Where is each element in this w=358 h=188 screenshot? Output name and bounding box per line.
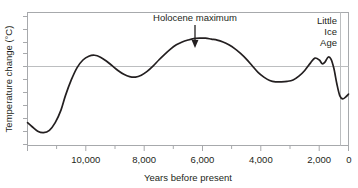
y-axis-ticks [23,17,28,145]
chart-canvas: Holocene maximum Little Ice Age 10,000 8… [0,0,358,188]
x-tick-label-4000: 4,000 [249,154,273,165]
x-tick-label-10000: 10,000 [71,154,100,165]
x-tick-label-0: 0 [346,154,351,165]
x-tick-label-6000: 6,000 [191,154,215,165]
x-axis-title: Years before present [144,172,232,183]
little-ice-age-label-line2: Ice [324,26,337,37]
little-ice-age-label-line1: Little [317,15,337,26]
plot-frame [28,13,349,146]
little-ice-age-label-line3: Age [320,37,337,48]
temperature-change-chart-figure: Holocene maximum Little Ice Age 10,000 8… [0,0,358,188]
x-axis-ticks [28,146,349,152]
x-tick-label-8000: 8,000 [132,154,156,165]
y-axis-title: Temperature change (°C) [3,26,14,133]
x-tick-label-2000: 2,000 [307,154,331,165]
holocene-maximum-label: Holocene maximum [153,12,237,23]
